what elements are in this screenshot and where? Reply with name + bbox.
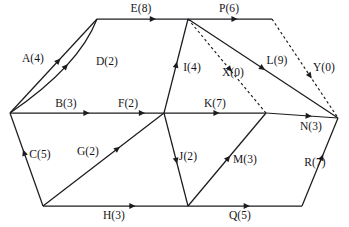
arrowhead-j (173, 157, 179, 164)
edge-label-i: I(4) (183, 62, 201, 74)
edge-label-g: G(2) (77, 146, 99, 158)
edge-label-e: E(8) (131, 3, 152, 15)
edge-g (43, 113, 164, 206)
arrowhead-i (173, 62, 179, 69)
arrowhead-h (129, 203, 135, 209)
arrowhead-c (22, 150, 27, 157)
edge-label-m: M(3) (233, 154, 257, 166)
graph-diagram: A(4)B(3)C(5)D(2)E(8)F(2)G(2)H(3)I(4)J(2)… (0, 0, 349, 227)
edge-label-y: Y(0) (313, 62, 335, 74)
edge-label-c: C(5) (29, 149, 50, 161)
edge-label-x: X(0) (222, 67, 244, 79)
arrowhead-e (150, 16, 156, 22)
arrowhead-l (258, 64, 265, 70)
graph-canvas (0, 0, 349, 227)
edge-label-b: B(3) (55, 98, 76, 110)
arrowhead-y (306, 72, 312, 79)
arrowhead-k (213, 110, 219, 116)
edge-label-n: N(3) (300, 121, 322, 133)
arrowhead-n (305, 113, 311, 119)
edge-label-f: F(2) (118, 98, 138, 110)
arrowhead-f (139, 110, 145, 116)
arrowhead-b (83, 110, 89, 116)
edge-label-p: P(6) (219, 3, 239, 15)
edge-label-h: H(3) (103, 210, 125, 222)
edge-a (10, 19, 97, 113)
edge-label-r: R(7) (304, 157, 325, 169)
edge-label-d: D(2) (96, 56, 118, 68)
edges-layer (10, 19, 338, 206)
edge-label-l: L(9) (267, 55, 288, 67)
arrowhead-p (231, 16, 237, 22)
edge-label-j: J(2) (179, 151, 197, 163)
arrowhead-q (244, 203, 250, 209)
arrowhead-g (113, 147, 120, 153)
edge-label-k: K(7) (204, 98, 226, 110)
edge-label-a: A(4) (22, 53, 44, 65)
edge-label-q: Q(5) (229, 210, 251, 222)
edge-n (266, 113, 338, 118)
